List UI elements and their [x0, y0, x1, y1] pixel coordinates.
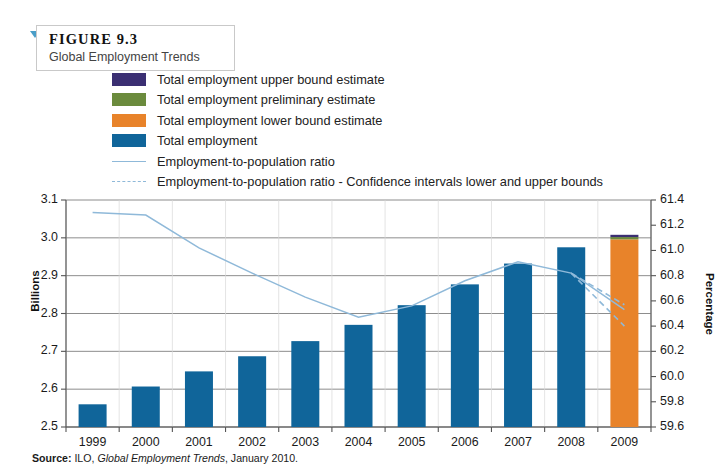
x-axis-tick-label: 2004 — [336, 435, 382, 449]
source-note: Source: ILO, Global Employment Trends, J… — [32, 452, 298, 464]
y-axis-right-tick-label: 61.0 — [660, 242, 700, 256]
source-title: Global Employment Trends — [97, 452, 225, 464]
y-axis-right-tick-label: 60.4 — [660, 318, 700, 332]
y-axis-right-tick-label: 60.0 — [660, 369, 700, 383]
x-axis-tick-label: 1999 — [70, 435, 116, 449]
x-axis-tick-label: 2003 — [282, 435, 328, 449]
x-axis-tick-label: 2007 — [495, 435, 541, 449]
bar-total-employment — [132, 387, 160, 427]
bar-total-employment — [79, 404, 107, 427]
x-axis-tick-label: 2009 — [601, 435, 647, 449]
y-axis-left-tick-label: 2.5 — [26, 419, 58, 433]
y-axis-right-tick-label: 60.8 — [660, 268, 700, 282]
source-date: , January 2010. — [225, 452, 298, 464]
x-axis-tick-label: 2006 — [442, 435, 488, 449]
bar-total-employment — [504, 264, 532, 427]
y-axis-left-title: Billions — [29, 270, 41, 312]
y-axis-right-tick-label: 60.6 — [660, 293, 700, 307]
y-axis-left-tick-label: 2.6 — [26, 381, 58, 395]
bar-total-employment — [345, 325, 373, 427]
chart-svg — [0, 0, 725, 472]
bar-total-employment — [398, 305, 426, 427]
bar-total-employment — [238, 356, 266, 427]
y-axis-right-tick-label: 61.2 — [660, 217, 700, 231]
x-axis-tick-label: 2000 — [123, 435, 169, 449]
y-axis-left-tick-label: 3.1 — [26, 192, 58, 206]
bar-total-employment — [185, 371, 213, 427]
bar-total-employment — [451, 284, 479, 427]
y-axis-left-tick-label: 2.7 — [26, 343, 58, 357]
x-axis-tick-label: 2002 — [229, 435, 275, 449]
chart-plot-area: 2.52.62.72.82.93.03.159.659.860.060.260.… — [0, 0, 725, 472]
y-axis-left-tick-label: 3.0 — [26, 230, 58, 244]
x-axis-tick-label: 2005 — [389, 435, 435, 449]
x-axis-tick-label: 2001 — [176, 435, 222, 449]
y-axis-right-tick-label: 59.8 — [660, 394, 700, 408]
y-axis-right-tick-label: 61.4 — [660, 192, 700, 206]
bar-lower-bound-estimate — [610, 239, 638, 427]
y-axis-right-title: Percentage — [704, 273, 716, 335]
bar-preliminary-estimate — [610, 237, 638, 239]
source-publisher: ILO, — [74, 452, 94, 464]
source-label: Source: — [32, 452, 71, 464]
bar-total-employment — [291, 341, 319, 427]
bar-upper-bound-estimate — [610, 235, 638, 237]
y-axis-right-tick-label: 59.6 — [660, 419, 700, 433]
x-axis-tick-label: 2008 — [548, 435, 594, 449]
y-axis-right-tick-label: 60.2 — [660, 343, 700, 357]
